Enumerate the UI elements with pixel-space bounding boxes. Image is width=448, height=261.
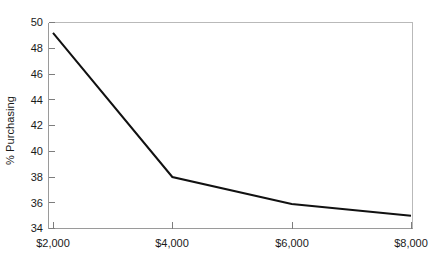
- y-tick-label-46: 46: [31, 68, 43, 80]
- x-tick-label-2000: $2,000: [36, 237, 70, 249]
- y-axis-ticks: [49, 23, 55, 229]
- data-series-line: [53, 33, 411, 216]
- plot-canvas: 50 48 46 44 42 40 38 36 34 $2,000 $4,000…: [0, 0, 448, 261]
- x-tick-label-6000: $6,000: [275, 237, 309, 249]
- plot-frame: [49, 23, 413, 229]
- y-tick-label-48: 48: [31, 42, 43, 54]
- y-tick-label-36: 36: [31, 197, 43, 209]
- y-tick-label-40: 40: [31, 145, 43, 157]
- x-axis-ticks: [54, 222, 412, 229]
- y-tick-label-34: 34: [31, 222, 43, 234]
- y-tick-label-44: 44: [31, 94, 43, 106]
- y-tick-label-42: 42: [31, 119, 43, 131]
- y-tick-label-50: 50: [31, 16, 43, 28]
- x-tick-label-8000: $8,000: [394, 237, 428, 249]
- x-tick-label-4000: $4,000: [155, 237, 189, 249]
- y-tick-label-38: 38: [31, 171, 43, 183]
- y-axis-tick-labels: 50 48 46 44 42 40 38 36 34: [31, 16, 43, 234]
- line-chart: % Purchasing 50 48 46 44 42: [0, 0, 448, 261]
- x-axis-tick-labels: $2,000 $4,000 $6,000 $8,000: [36, 237, 428, 249]
